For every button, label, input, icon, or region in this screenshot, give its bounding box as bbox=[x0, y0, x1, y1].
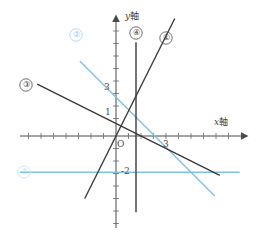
marker-label-1[interactable]: ① bbox=[163, 34, 170, 42]
x-axis-label-cjk: 軸 bbox=[219, 117, 228, 127]
y-axis-label: y軸 bbox=[125, 12, 139, 21]
y-tick-label-minus2: -2 bbox=[121, 167, 130, 176]
y-tick-label-1: 1 bbox=[105, 108, 111, 117]
line-3[interactable] bbox=[37, 84, 220, 175]
marker-label-3[interactable]: ③ bbox=[23, 81, 30, 89]
marker-label-2[interactable]: ② bbox=[73, 31, 80, 39]
x-axis-label: x軸 bbox=[214, 118, 228, 127]
x-axis-arrowhead bbox=[241, 132, 249, 140]
y-axis-arrowhead bbox=[112, 15, 120, 23]
coordinate-plane-svg bbox=[0, 0, 274, 249]
x-tick-label-3: 3 bbox=[163, 140, 169, 149]
origin-label: O bbox=[117, 140, 124, 149]
line-2[interactable] bbox=[80, 61, 215, 196]
figure-canvas: y軸 x軸 3 1 -2 3 O ① ② ③ ④ ⑤ bbox=[0, 0, 274, 249]
y-tick-label-3: 3 bbox=[104, 83, 110, 92]
y-axis-label-cjk: 軸 bbox=[130, 11, 139, 21]
marker-label-5[interactable]: ⑤ bbox=[21, 168, 28, 176]
marker-label-4[interactable]: ④ bbox=[133, 29, 140, 37]
